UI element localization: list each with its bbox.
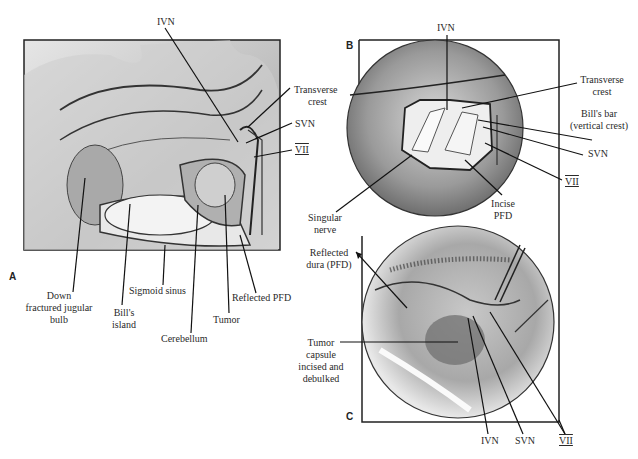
label-c-tumor-capsule-line4: debulked [295, 373, 347, 385]
label-a-svn: SVN [295, 118, 315, 130]
label-c-tumor-capsule-line2: capsule [295, 349, 347, 361]
label-b-transverse-crest-line2: crest [572, 86, 632, 98]
label-a-tumor: Tumor [213, 314, 240, 326]
panel-letter-a: A [9, 271, 16, 282]
label-c-reflected-dura-line1: Reflected [300, 247, 358, 259]
label-b-incise-pfd-line2: PFD [483, 210, 523, 222]
panel-letter-b: B [346, 40, 353, 51]
label-c-reflected-dura: Reflected dura (PFD) [300, 247, 358, 271]
label-a-cerebellum: Cerebellum [161, 333, 208, 345]
label-b-incise-pfd-line1: Incise [483, 198, 523, 210]
label-c-tumor-capsule: Tumor capsule incised and debulked [295, 337, 347, 385]
label-a-sigmoid-sinus: Sigmoid sinus [129, 285, 186, 297]
label-a-jugular-line2: fractured jugular [14, 302, 104, 314]
label-a-down-fractured-jugular-bulb: Down fractured jugular bulb [14, 290, 104, 326]
label-c-tumor-capsule-line3: incised and [295, 361, 347, 373]
label-c-vii: VII [559, 435, 573, 447]
label-a-transverse-crest-line2: crest [294, 96, 338, 108]
label-b-bills-bar-line1: Bill's bar [563, 108, 635, 120]
panel-letter-c: C [346, 411, 353, 422]
label-b-singular-nerve: Singular nerve [300, 212, 350, 236]
label-c-ivn: IVN [481, 435, 499, 447]
label-b-transverse-crest: Transverse crest [572, 74, 632, 98]
label-b-bills-bar-line2: (vertical crest) [563, 120, 635, 132]
label-a-jugular-line3: bulb [14, 314, 104, 326]
label-a-bills-island-line1: Bill's [109, 307, 139, 319]
panel-b-drawing [336, 35, 592, 236]
label-a-jugular-line1: Down [14, 290, 104, 302]
label-c-reflected-dura-line2: dura (PFD) [300, 259, 358, 271]
label-c-svn: SVN [515, 435, 535, 447]
panel-c-drawing [340, 226, 565, 434]
label-b-incise-pfd: Incise PFD [483, 198, 523, 222]
label-a-transverse-crest: Transverse crest [294, 84, 338, 108]
label-a-transverse-crest-line1: Transverse [294, 84, 338, 96]
label-a-vii: VII [295, 144, 309, 156]
label-a-reflected-pfd: Reflected PFD [232, 292, 291, 304]
label-b-ivn: IVN [437, 22, 455, 34]
label-b-bills-bar: Bill's bar (vertical crest) [563, 108, 635, 132]
label-b-vii: VII [565, 176, 579, 188]
label-b-singular-nerve-line1: Singular [300, 212, 350, 224]
label-b-singular-nerve-line2: nerve [300, 224, 350, 236]
label-b-svn: SVN [588, 148, 608, 160]
label-b-transverse-crest-line1: Transverse [572, 74, 632, 86]
label-c-tumor-capsule-line1: Tumor [295, 337, 347, 349]
label-a-bills-island-line2: island [109, 319, 139, 331]
label-a-bills-island: Bill's island [109, 307, 139, 331]
label-a-ivn: IVN [157, 16, 175, 28]
